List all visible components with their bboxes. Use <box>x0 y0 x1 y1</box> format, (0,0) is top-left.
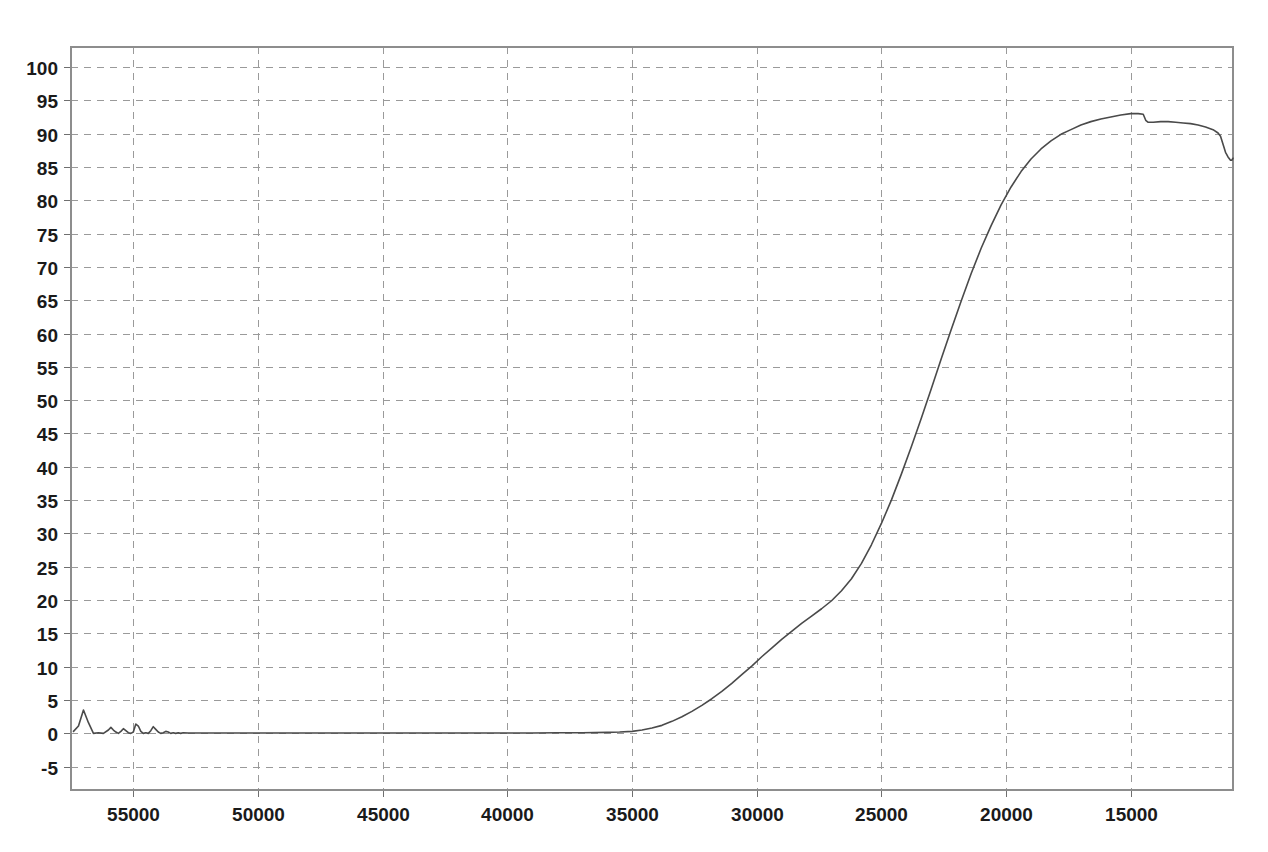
x-tick-label: 20000 <box>980 804 1033 825</box>
x-tick-label: 35000 <box>606 804 659 825</box>
y-tick-label: 10 <box>37 658 58 679</box>
y-tick-label: 15 <box>37 624 59 645</box>
y-tick-label: 0 <box>47 724 58 745</box>
y-tick-label: 50 <box>37 391 58 412</box>
x-tick-label: 50000 <box>232 804 285 825</box>
chart-background <box>0 0 1268 852</box>
y-tick-label: 5 <box>47 691 58 712</box>
y-tick-label: 75 <box>37 225 59 246</box>
y-tick-label: 80 <box>37 191 58 212</box>
y-tick-label: 20 <box>37 591 58 612</box>
y-tick-label: 70 <box>37 258 58 279</box>
y-tick-label: 85 <box>37 158 59 179</box>
x-tick-label: 25000 <box>855 804 908 825</box>
x-tick-label: 45000 <box>357 804 410 825</box>
x-tick-label: 55000 <box>107 804 160 825</box>
x-axis-tick-labels: 5500050000450004000035000300002500020000… <box>107 804 1158 825</box>
y-tick-label: 40 <box>37 458 58 479</box>
x-tick-label: 40000 <box>481 804 534 825</box>
y-tick-label: 55 <box>37 358 59 379</box>
y-tick-label: 90 <box>37 125 58 146</box>
y-tick-label: 35 <box>37 491 59 512</box>
chart-container: -505101520253035404550556065707580859095… <box>0 0 1268 852</box>
y-tick-label: 95 <box>37 91 59 112</box>
transmittance-spectrum-chart: -505101520253035404550556065707580859095… <box>0 0 1268 852</box>
y-tick-label: 100 <box>26 58 58 79</box>
y-tick-label: 45 <box>37 424 59 445</box>
y-tick-label: 30 <box>37 524 58 545</box>
x-tick-label: 30000 <box>731 804 784 825</box>
y-tick-label: 60 <box>37 325 58 346</box>
y-tick-label: 65 <box>37 291 59 312</box>
y-tick-label: 25 <box>37 558 59 579</box>
y-tick-label: -5 <box>41 758 58 779</box>
x-tick-label: 15000 <box>1105 804 1158 825</box>
